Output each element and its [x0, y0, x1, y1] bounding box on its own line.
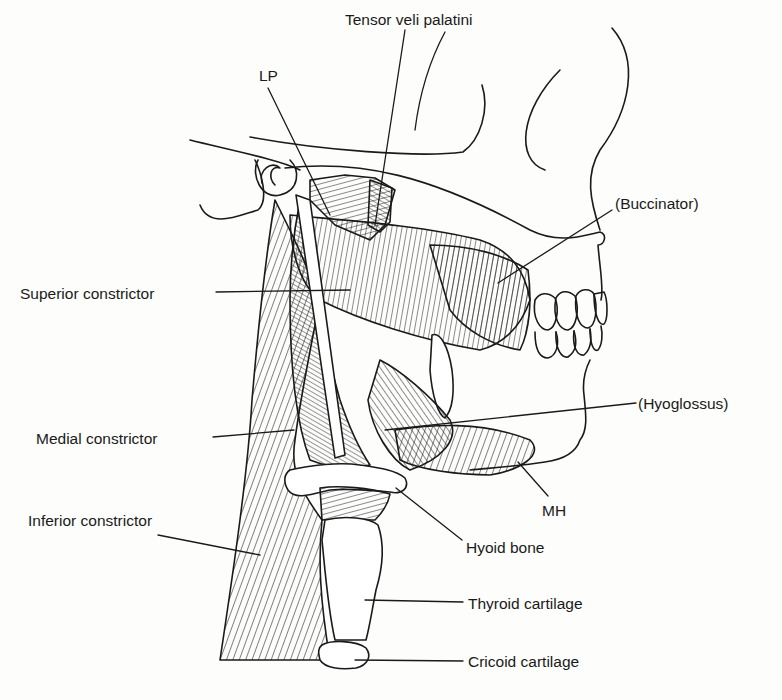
label-medial-constrictor: Medial constrictor — [36, 431, 157, 447]
pharynx-muscle-illustration — [0, 0, 782, 700]
label-cricoid-cartilage: Cricoid cartilage — [468, 654, 579, 670]
label-hyoglossus: (Hyoglossus) — [638, 396, 728, 412]
label-hyoid-bone: Hyoid bone — [466, 540, 544, 556]
thyrohyoid-membrane — [320, 487, 390, 520]
label-superior-constrictor: Superior constrictor — [20, 286, 154, 302]
label-lp: LP — [259, 68, 278, 84]
leader-lines — [158, 30, 636, 661]
label-inferior-constrictor: Inferior constrictor — [28, 513, 152, 529]
teeth — [534, 290, 607, 358]
label-thyroid-cartilage: Thyroid cartilage — [468, 596, 583, 612]
label-mh: MH — [542, 503, 566, 519]
thyroid-cartilage — [322, 518, 382, 640]
anatomy-figure: Tensor veli palatini LP (Buccinator) Sup… — [0, 0, 782, 700]
cricoid-cartilage — [319, 642, 369, 669]
label-buccinator: (Buccinator) — [615, 196, 699, 212]
label-tensor-veli-palatini: Tensor veli palatini — [345, 12, 473, 28]
